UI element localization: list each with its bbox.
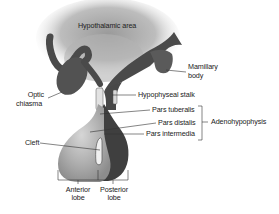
- anterior-lobe-region: [58, 104, 111, 182]
- label-adenohypophysis: Adenohypophysis: [211, 118, 266, 126]
- label-pars-distalis: Pars distalis: [158, 119, 195, 127]
- label-optic-chiasma-line1: Optic: [24, 91, 44, 99]
- label-posterior-lobe-line2: lobe: [96, 194, 132, 202]
- label-hypothalamic-area: Hypothalamic area: [78, 22, 136, 30]
- label-pars-intermedia: Pars intermedia: [146, 130, 195, 138]
- label-mamillary-body-line1: Mamillary: [188, 63, 218, 71]
- label-mamillary-body-line2: body: [188, 72, 203, 80]
- label-pars-tuberalis: Pars tuberalis: [152, 106, 195, 114]
- label-hypophyseal-stalk: Hypophyseal stalk: [138, 91, 195, 99]
- label-optic-chiasma-line2: chiasma: [16, 100, 42, 108]
- pituitary-diagram: Hypothalamic area Mamillary body Optic c…: [0, 0, 279, 214]
- label-cleft: Cleft: [25, 139, 39, 147]
- label-anterior-lobe-line2: lobe: [60, 194, 96, 202]
